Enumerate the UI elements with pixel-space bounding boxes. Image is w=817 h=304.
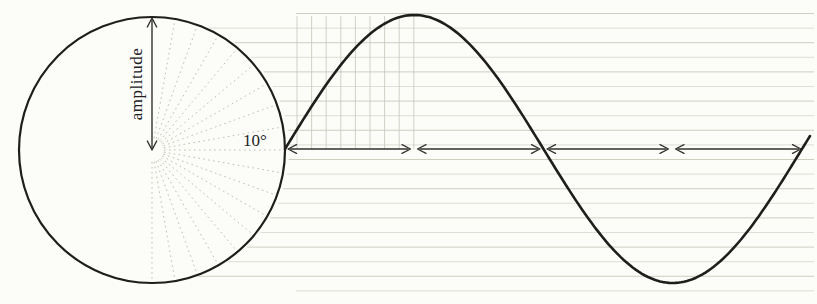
angle-step-label: 10° <box>243 131 267 150</box>
sine-wave-generation-diagram: amplitude 10° <box>0 0 817 304</box>
paper-background <box>0 0 817 304</box>
diagram-canvas: amplitude 10° <box>0 0 817 304</box>
amplitude-label: amplitude <box>127 48 146 120</box>
